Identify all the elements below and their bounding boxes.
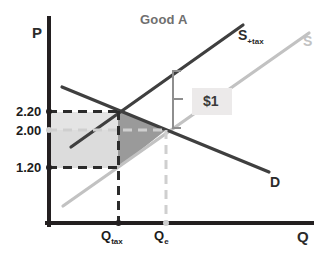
y-tick-label-120: 1.20 <box>16 161 41 174</box>
tax-revenue-area <box>48 130 118 168</box>
x-tick-label-qe-base: Q <box>154 228 164 243</box>
chart-canvas <box>0 0 331 257</box>
y-tick-120 <box>46 165 52 171</box>
demand-label: D <box>270 175 280 189</box>
y-tick-label-200: 2.00 <box>16 124 41 137</box>
supply-plus-tax-label: S+tax <box>238 28 264 46</box>
x-tick-label-qtax: Qtax <box>101 229 123 246</box>
x-tick-qtax <box>116 220 122 226</box>
supply-demand-tax-diagram: Good A P Q 2.20 2.00 1.20 Qtax Qe S+tax … <box>0 0 331 257</box>
x-tick-label-qtax-sub: tax <box>111 237 123 246</box>
supply-plus-tax-label-sub: +tax <box>247 37 263 46</box>
y-tick-220 <box>46 109 52 115</box>
supply-label: S <box>303 34 312 48</box>
price-axis-label: P <box>32 25 42 40</box>
y-tick-label-220: 2.20 <box>16 105 41 118</box>
x-tick-label-qe-sub: e <box>164 237 168 246</box>
tax-amount-label: $1 <box>192 88 232 115</box>
quantity-axis-label: Q <box>297 229 309 244</box>
chart-title: Good A <box>140 13 188 26</box>
y-tick-200 <box>46 127 52 133</box>
x-tick-label-qtax-base: Q <box>101 228 111 243</box>
x-tick-label-qe: Qe <box>154 229 169 246</box>
x-tick-qe <box>163 220 169 226</box>
supply-plus-tax-label-base: S <box>238 27 247 43</box>
